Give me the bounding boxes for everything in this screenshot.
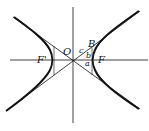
label-origin: O bbox=[63, 46, 71, 57]
hyperbola-diagram: O F' F B c b a bbox=[0, 0, 149, 131]
label-c: c bbox=[79, 46, 84, 55]
label-focus-left: F' bbox=[36, 54, 47, 65]
label-a: a bbox=[85, 59, 90, 68]
label-focus-right: F bbox=[97, 54, 106, 65]
label-point-b: B bbox=[87, 38, 95, 49]
